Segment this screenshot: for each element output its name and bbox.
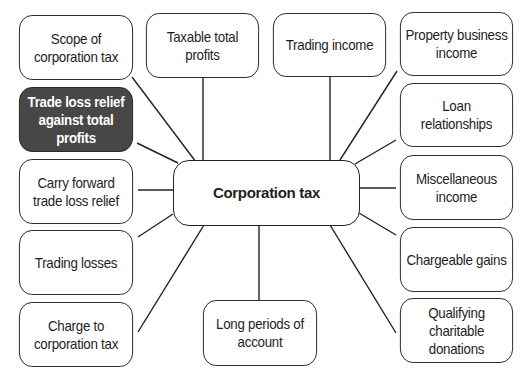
node-qualifying-charitable-donations: Qualifying charitable donations bbox=[400, 298, 513, 363]
node-label: Trade loss relief against total profits bbox=[28, 93, 125, 147]
center-node-corporation-tax: Corporation tax bbox=[173, 160, 360, 226]
link-trade-loss-relief bbox=[137, 143, 178, 163]
center-label: Corporation tax bbox=[213, 184, 320, 202]
node-trading-income: Trading income bbox=[273, 13, 386, 77]
link-property bbox=[340, 71, 397, 160]
node-label: Taxable total profits bbox=[167, 28, 238, 64]
node-label: Miscellaneous income bbox=[416, 170, 497, 206]
node-taxable-total-profits: Taxable total profits bbox=[146, 13, 259, 78]
link-charge bbox=[138, 225, 204, 332]
node-property-business-income: Property business income bbox=[400, 12, 513, 76]
node-label: Property business income bbox=[405, 26, 507, 62]
node-charge-to-corporation-tax: Charge to corporation tax bbox=[19, 302, 133, 367]
link-trading-losses bbox=[138, 214, 173, 237]
node-label: Chargeable gains bbox=[406, 251, 506, 269]
node-label: Charge to corporation tax bbox=[34, 317, 118, 353]
corporation-tax-mind-map: Corporation tax Scope of corporation tax… bbox=[0, 0, 532, 375]
link-loan bbox=[355, 140, 396, 164]
node-trade-loss-relief-against-total-profits: Trade loss relief against total profits bbox=[19, 87, 133, 152]
node-label: Long periods of account bbox=[216, 315, 304, 351]
node-label: Trading income bbox=[286, 36, 374, 54]
node-label: Carry forward trade loss relief bbox=[33, 174, 119, 210]
node-label: Trading losses bbox=[35, 254, 117, 272]
node-loan-relationships: Loan relationships bbox=[400, 83, 513, 147]
node-label: Qualifying charitable donations bbox=[428, 304, 485, 358]
link-scope bbox=[132, 77, 196, 162]
node-label: Scope of corporation tax bbox=[34, 30, 118, 66]
node-trading-losses: Trading losses bbox=[19, 230, 133, 295]
node-scope-of-corporation-tax: Scope of corporation tax bbox=[19, 15, 133, 80]
node-carry-forward-trade-loss-relief: Carry forward trade loss relief bbox=[19, 159, 133, 224]
node-chargeable-gains: Chargeable gains bbox=[400, 227, 513, 292]
node-long-periods-of-account: Long periods of account bbox=[203, 300, 317, 366]
link-chargeable bbox=[359, 213, 396, 235]
node-label: Loan relationships bbox=[421, 97, 492, 133]
node-miscellaneous-income: Miscellaneous income bbox=[400, 155, 513, 220]
link-qualifying bbox=[330, 225, 396, 333]
